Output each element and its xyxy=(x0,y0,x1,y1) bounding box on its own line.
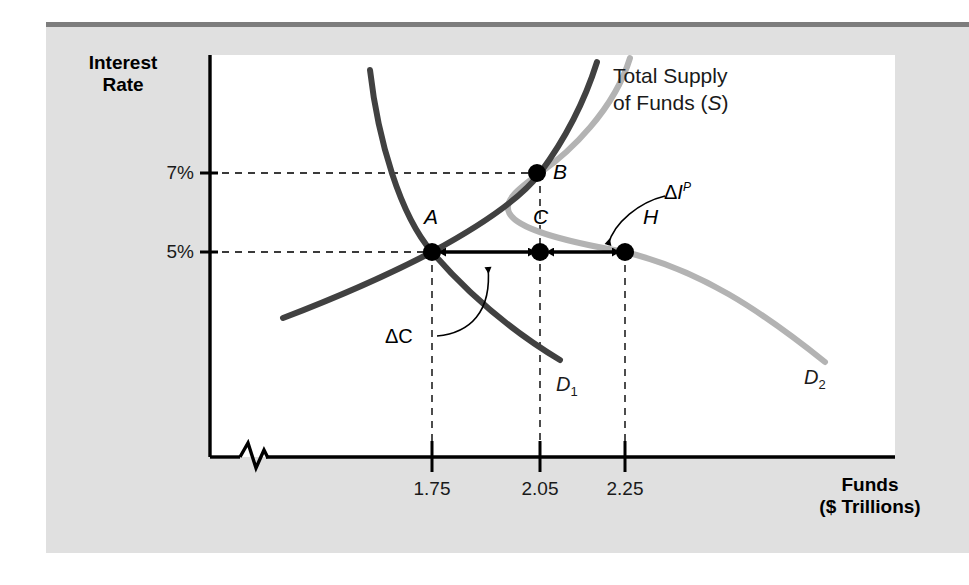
supply-caption-line2-post: ) xyxy=(722,91,729,114)
x-tick-label-175: 1.75 xyxy=(397,478,467,500)
supply-caption-symbol: S xyxy=(708,91,722,114)
x-axis-title: Funds ($ Trillions) xyxy=(780,474,960,518)
annotation-delta-c: ΔC xyxy=(385,325,413,348)
planned-superscript: P xyxy=(683,180,691,194)
point-label-c: C xyxy=(533,205,548,229)
axis-lines xyxy=(210,55,895,468)
demand-curve-d1 xyxy=(370,70,560,360)
point-label-a: A xyxy=(424,205,438,229)
demand-curve-label-d2: D2 xyxy=(804,366,826,392)
point-marker-c xyxy=(531,243,549,261)
point-marker-a xyxy=(423,243,441,261)
annotation-delta-ip: ΔIP xyxy=(664,180,691,204)
d2-letter: D xyxy=(804,366,818,388)
delta-symbol: Δ xyxy=(664,181,677,203)
y-tick-label-5pct: 5% xyxy=(134,241,194,263)
supply-curve-s xyxy=(283,62,597,318)
point-label-b: B xyxy=(553,160,567,184)
d2-subscript: 2 xyxy=(818,377,825,392)
y-axis-title-line2: Rate xyxy=(44,74,202,96)
supply-caption-line2-pre: of Funds ( xyxy=(613,91,708,114)
point-marker-h xyxy=(616,243,634,261)
x-tick-label-205: 2.05 xyxy=(505,478,575,500)
supply-caption-line1: Total Supply xyxy=(613,62,729,89)
supply-caption-line2: of Funds (S) xyxy=(613,89,729,116)
x-tick-label-225: 2.25 xyxy=(590,478,660,500)
d1-letter: D xyxy=(556,373,570,395)
demand-curve-label-d1: D1 xyxy=(556,373,578,399)
d1-subscript: 1 xyxy=(570,384,577,399)
point-marker-b xyxy=(528,164,546,182)
figure-root: Interest Rate Funds ($ Trillions) 7% 5% … xyxy=(0,0,969,585)
annotation-leaders xyxy=(437,196,665,336)
point-label-h: H xyxy=(643,205,658,229)
guide-lines xyxy=(209,173,625,457)
x-axis-title-line2: ($ Trillions) xyxy=(780,496,960,518)
y-tick-label-7pct: 7% xyxy=(134,162,194,184)
axis-break-zigzag xyxy=(240,443,268,468)
supply-curve-caption: Total Supply of Funds (S) xyxy=(613,62,729,116)
x-axis-title-line1: Funds xyxy=(780,474,960,496)
y-axis-title-line1: Interest xyxy=(44,52,202,74)
y-axis-title: Interest Rate xyxy=(44,52,202,96)
